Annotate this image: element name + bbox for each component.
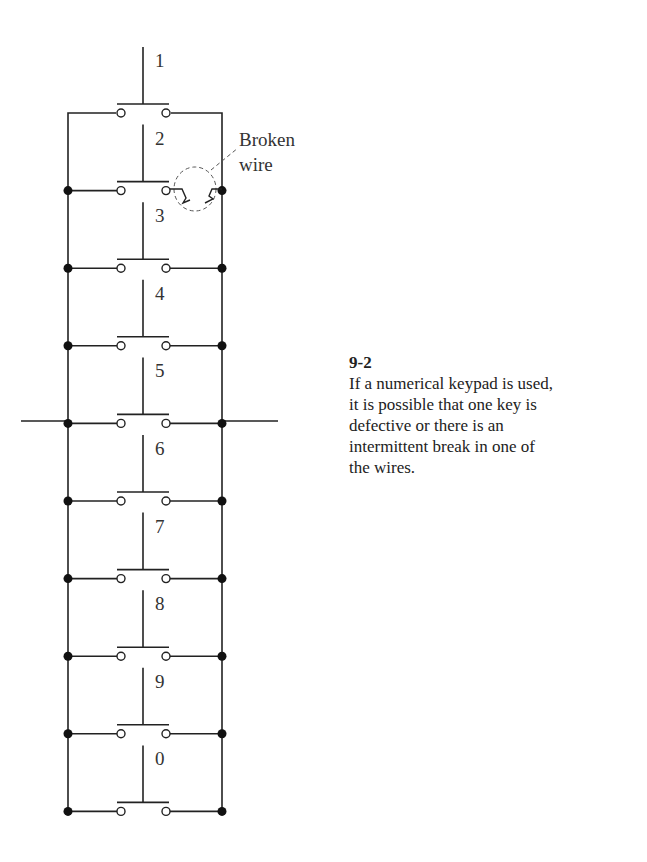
contact-terminal xyxy=(117,109,125,117)
caption-line: the wires. xyxy=(349,457,639,478)
broken-label-line2: wire xyxy=(239,154,273,175)
junction-dot xyxy=(218,652,227,661)
broken-wire-annotation: Broken wire xyxy=(170,129,295,211)
key-label-8: 8 xyxy=(155,593,165,614)
contact-terminal xyxy=(117,807,125,815)
key-label-7: 7 xyxy=(155,516,165,537)
junction-dot xyxy=(64,574,73,583)
key-label-3: 3 xyxy=(155,205,165,226)
figure-number: 9-2 xyxy=(349,352,639,373)
contact-terminal xyxy=(117,187,125,195)
junction-dot xyxy=(218,497,227,506)
contact-terminal xyxy=(162,187,170,195)
key-label-9: 9 xyxy=(155,671,165,692)
contact-terminal xyxy=(117,342,125,350)
junction-dot xyxy=(64,186,73,195)
junction-dot xyxy=(218,574,227,583)
contact-terminal xyxy=(117,730,125,738)
junction-dot xyxy=(218,807,227,816)
junction-dot xyxy=(64,807,73,816)
junction-dot xyxy=(64,497,73,506)
key-label-0: 0 xyxy=(155,748,165,769)
key-label-5: 5 xyxy=(155,360,165,381)
caption-line: defective or there is an xyxy=(349,415,639,436)
junction-dot xyxy=(64,341,73,350)
junction-dot xyxy=(218,419,227,428)
junction-dot xyxy=(218,341,227,350)
caption-line: intermittent break in one of xyxy=(349,436,639,457)
contact-terminal xyxy=(117,575,125,583)
contact-terminal xyxy=(117,419,125,427)
figure-caption: 9-2 If a numerical keypad is used, it is… xyxy=(349,352,639,478)
caption-line: it is possible that one key is xyxy=(349,394,639,415)
contact-terminal xyxy=(162,652,170,660)
junction-dot xyxy=(64,652,73,661)
contact-terminal xyxy=(117,264,125,272)
junction-dot xyxy=(218,186,227,195)
junction-dot xyxy=(218,264,227,273)
contact-terminal xyxy=(162,109,170,117)
contact-terminal xyxy=(162,807,170,815)
contact-terminal xyxy=(117,652,125,660)
contact-terminal xyxy=(162,419,170,427)
key-label-2: 2 xyxy=(155,128,165,149)
key-label-6: 6 xyxy=(155,438,165,459)
caption-line: If a numerical keypad is used, xyxy=(349,373,639,394)
contact-terminal xyxy=(162,497,170,505)
contact-terminal xyxy=(162,575,170,583)
key-label-1: 1 xyxy=(155,50,165,71)
contact-terminal xyxy=(117,497,125,505)
junction-dot xyxy=(64,264,73,273)
contact-terminal xyxy=(162,730,170,738)
junction-dot xyxy=(218,729,227,738)
junction-dot xyxy=(64,419,73,428)
junction-dot xyxy=(64,729,73,738)
key-label-4: 4 xyxy=(155,283,165,304)
contact-terminal xyxy=(162,342,170,350)
broken-label-line1: Broken xyxy=(239,129,295,150)
contact-terminal xyxy=(162,264,170,272)
